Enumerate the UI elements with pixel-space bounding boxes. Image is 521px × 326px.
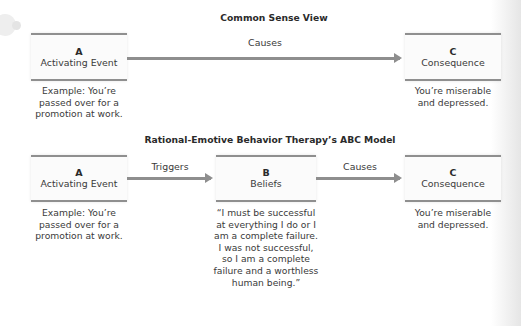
box-letter: C bbox=[450, 167, 457, 178]
causes-arrow-icon bbox=[316, 177, 400, 180]
box-letter: A bbox=[75, 167, 82, 178]
causes-arrow-label: Causes bbox=[330, 161, 390, 172]
activating-event-caption: Example: You’re passed over for a promot… bbox=[27, 85, 131, 120]
page-decoration bbox=[12, 21, 21, 30]
box-letter: A bbox=[75, 46, 82, 57]
box-label: Beliefs bbox=[250, 178, 281, 190]
causes-arrow-icon bbox=[127, 57, 400, 60]
activating-event-caption: Example: You’re passed over for a promot… bbox=[27, 207, 131, 242]
common-sense-view-title: Common Sense View bbox=[180, 12, 368, 23]
rebt-model-title: Rational-Emotive Behavior Therapy’s ABC … bbox=[120, 134, 420, 145]
triggers-arrow-label: Triggers bbox=[140, 161, 200, 172]
box-letter: B bbox=[262, 167, 269, 178]
box-label: Consequence bbox=[421, 178, 484, 190]
box-label: Activating Event bbox=[41, 178, 118, 190]
consequence-box: C Consequence bbox=[405, 33, 501, 81]
box-letter: C bbox=[450, 46, 457, 57]
causes-arrow-label: Causes bbox=[225, 37, 305, 48]
consequence-box: C Consequence bbox=[405, 155, 501, 202]
triggers-arrow-icon bbox=[127, 177, 211, 180]
activating-event-box: A Activating Event bbox=[31, 33, 127, 81]
beliefs-caption: “I must be successful at everything I do… bbox=[212, 207, 320, 288]
consequence-caption: You’re miserable and depressed. bbox=[405, 207, 501, 230]
activating-event-box: A Activating Event bbox=[31, 155, 127, 202]
beliefs-box: B Beliefs bbox=[216, 155, 316, 202]
box-label: Consequence bbox=[421, 57, 484, 69]
consequence-caption: You’re miserable and depressed. bbox=[405, 85, 501, 108]
box-label: Activating Event bbox=[41, 57, 118, 69]
